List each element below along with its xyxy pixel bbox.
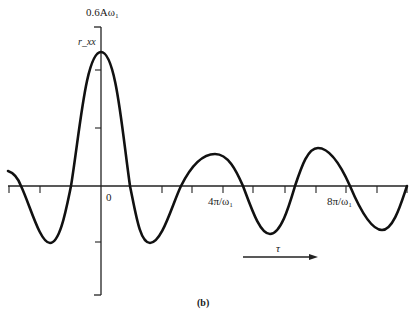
- y-axis-top-label: 0.6Aω₁: [86, 6, 119, 18]
- y-axis-label: r_xx: [78, 36, 96, 47]
- autocorrelation-plot: [0, 0, 413, 315]
- y-ticks: [95, 70, 101, 242]
- x-tick-label-8pi: 8π/ω₁: [327, 195, 352, 207]
- origin-label: 0: [106, 191, 112, 203]
- autocorrelation-curve: [8, 52, 407, 243]
- tau-label: τ: [276, 242, 280, 254]
- x-tick-label-4pi: 4π/ω₁: [208, 195, 233, 207]
- panel-label: (b): [197, 297, 209, 308]
- tau-arrow-head-icon: [309, 254, 318, 260]
- y-top-label-text: 0.6Aω₁: [86, 6, 119, 18]
